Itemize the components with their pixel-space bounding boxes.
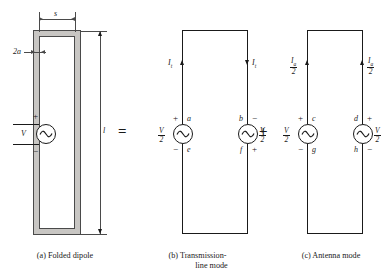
- am-left-source-minus: −: [298, 145, 303, 154]
- s-dimension-label: s: [54, 10, 57, 18]
- panel-folded-dipole: s 2a l + − V (a) Folded dipole: [0, 0, 130, 280]
- 2a-dimension-label: 2a: [13, 48, 21, 56]
- tl-right-current-label: It: [252, 59, 256, 69]
- tl-left-source-voltage: V 2: [158, 127, 165, 143]
- tl-node-b: b: [239, 115, 243, 123]
- am-right-source-minus: −: [367, 145, 372, 154]
- tl-left-source-symbol: [173, 124, 193, 144]
- am-left-current-arrow: [305, 60, 309, 65]
- am-right-current-label: Ia 2: [367, 57, 374, 76]
- equals-operator: =: [118, 124, 127, 139]
- l-extension-bottom: [81, 234, 107, 235]
- tl-left-wire-upper: [182, 30, 183, 124]
- panel-antenna-mode: Ia 2 Ia 2 + c − g V 2 + d − h: [272, 0, 390, 280]
- tl-left-source-plus: +: [173, 114, 178, 123]
- l-arrow-down: [98, 229, 102, 234]
- feed-lead-bottom: [13, 144, 39, 145]
- am-left-source-plus: +: [298, 114, 303, 123]
- am-right-source-voltage: V 2: [374, 127, 381, 143]
- am-right-current-arrow: [360, 60, 364, 65]
- tl-right-wire-lower: [247, 144, 248, 234]
- am-left-current-label: Ia 2: [290, 57, 297, 76]
- am-left-wire-lower: [307, 144, 308, 234]
- caption-panel-b-line2: line mode: [149, 261, 274, 271]
- am-left-source-voltage: V 2: [283, 127, 290, 143]
- am-node-h: h: [354, 146, 358, 154]
- tl-node-e: e: [187, 146, 191, 154]
- caption-panel-c-line1: (c) Antenna mode: [272, 251, 390, 261]
- feed-lead-top: [13, 124, 39, 125]
- source-a-minus: −: [33, 147, 38, 156]
- plus-operator: +: [259, 124, 268, 139]
- am-node-d: d: [354, 115, 358, 123]
- tl-left-source-minus: −: [173, 145, 178, 154]
- caption-panel-a-line1: (a) Folded dipole: [0, 251, 130, 261]
- tl-bottom-wire: [182, 233, 248, 234]
- s-arrow-left: [71, 17, 75, 21]
- 2a-arrow-right: [31, 50, 35, 54]
- figure-canvas: s 2a l + − V (a) Folded dipole =: [0, 0, 390, 280]
- tl-left-wire-lower: [182, 144, 183, 234]
- l-arrow-up: [98, 31, 102, 36]
- am-left-source-symbol: [298, 124, 318, 144]
- source-a-symbol: [36, 124, 56, 144]
- tl-left-current-label: It: [168, 59, 172, 69]
- am-right-source-plus: +: [367, 114, 372, 123]
- am-right-wire-lower: [362, 144, 363, 234]
- source-a-voltage-label: V: [21, 130, 26, 138]
- tl-right-source-plus: +: [252, 145, 257, 154]
- l-dimension-label: l: [103, 127, 105, 135]
- am-right-wire-upper: [362, 30, 363, 124]
- 2a-arrow-left: [41, 50, 45, 54]
- tl-right-current-arrow: [245, 60, 249, 65]
- l-extension-top: [81, 31, 107, 32]
- am-node-c: c: [312, 115, 316, 123]
- s-extension-left: [39, 12, 40, 32]
- tl-top-wire: [182, 30, 248, 31]
- panel-transmission-line-mode: It It + a − e V 2 − b + f V 2: [135, 0, 260, 280]
- s-extension-right: [75, 12, 76, 32]
- tl-right-wire-upper: [247, 30, 248, 124]
- am-left-wire-upper: [307, 30, 308, 124]
- l-dimension-line: [100, 31, 101, 234]
- am-node-g: g: [312, 146, 316, 154]
- am-bottom-wire: [307, 233, 363, 234]
- source-a-plus: +: [33, 112, 38, 121]
- tl-node-a: a: [187, 115, 191, 123]
- caption-panel-b-line1: (b) Transmission-: [135, 251, 260, 261]
- s-arrow-right: [39, 17, 43, 21]
- am-right-source-symbol: [353, 124, 373, 144]
- am-top-wire: [307, 30, 363, 31]
- tl-right-source-minus: −: [252, 114, 257, 123]
- tl-node-f: f: [240, 146, 242, 154]
- tl-left-current-arrow: [180, 60, 184, 65]
- tl-right-source-symbol: [238, 124, 258, 144]
